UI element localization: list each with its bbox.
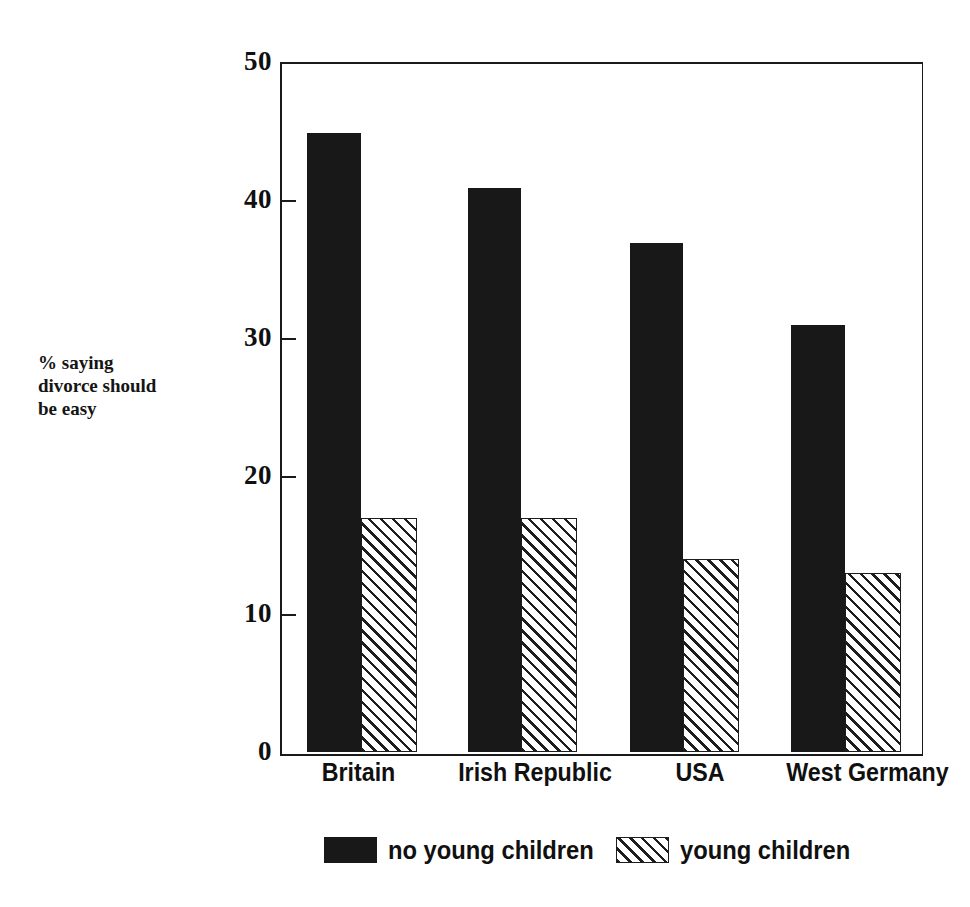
y-axis-label-line-2: divorce should: [38, 374, 223, 397]
y-tick-label-50: 50: [212, 48, 272, 75]
x-label-usa: USA: [626, 757, 775, 787]
y-axis-label: % saying divorce should be easy: [38, 351, 223, 420]
x-label-britain: Britain: [286, 757, 430, 787]
bar-irish-republic-no-young-children: [468, 188, 521, 752]
bar-west-germany-no-young-children: [791, 325, 845, 752]
x-axis-category-labels: Britain Irish Republic USA West Germany: [0, 757, 970, 797]
bar-britain-young-children: [361, 518, 417, 752]
legend-entry-young-children: young children: [616, 836, 859, 864]
x-label-irish-republic: Irish Republic: [414, 757, 656, 787]
bar-west-germany-young-children: [845, 573, 901, 752]
legend-label-young-children: young children: [680, 836, 850, 864]
y-tick-label-40: 40: [212, 186, 272, 213]
y-axis-label-line-1: % saying: [38, 351, 223, 374]
bars-container: [282, 64, 920, 752]
bar-usa-young-children: [683, 559, 739, 752]
bar-britain-no-young-children: [307, 133, 361, 752]
bar-chart-figure: · · · · % saying divorce should be easy …: [0, 0, 970, 907]
bar-usa-no-young-children: [630, 243, 683, 752]
y-tick-label-10: 10: [212, 600, 272, 627]
y-axis-label-line-3: be easy: [38, 397, 223, 420]
x-label-west-germany: West Germany: [768, 757, 968, 787]
y-tick-label-20: 20: [212, 462, 272, 489]
bar-irish-republic-young-children: [521, 518, 577, 752]
legend-swatch-solid-icon: [324, 837, 377, 863]
chart-legend: no young children young children: [0, 836, 970, 876]
legend-label-no-young-children: no young children: [388, 836, 594, 864]
legend-swatch-hatch-icon: [616, 837, 669, 863]
y-tick-label-30: 30: [212, 324, 272, 351]
legend-entry-no-young-children: no young children: [324, 836, 605, 864]
